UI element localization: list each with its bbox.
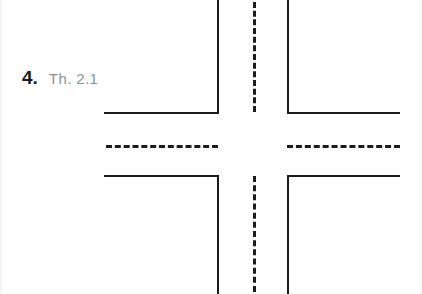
curb-bottom-right-vertical [287,175,289,294]
center-line-east [287,145,400,148]
worksheet-page: 4. Th. 2.1 [0,0,422,294]
curb-bottom-left-vertical [217,175,219,294]
curb-top-left-horizontal [104,112,219,114]
curb-top-left-vertical [217,0,219,114]
center-line-west [106,145,218,148]
center-line-south [253,176,256,292]
curb-bottom-left-horizontal [104,175,219,177]
curb-top-right-horizontal [287,112,400,114]
curb-bottom-right-horizontal [287,175,400,177]
curb-top-right-vertical [287,0,289,114]
center-line-north [253,2,256,112]
intersection-diagram [0,0,422,294]
